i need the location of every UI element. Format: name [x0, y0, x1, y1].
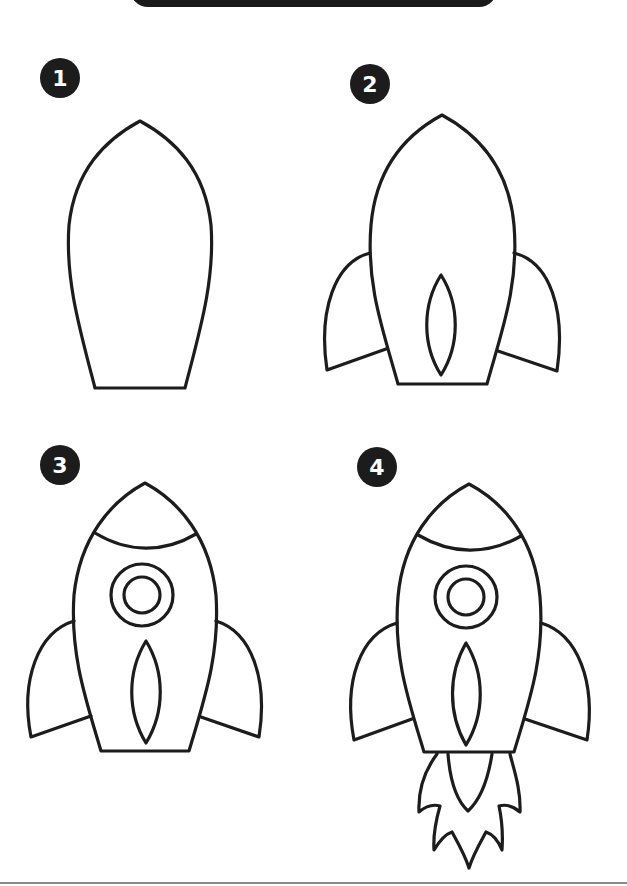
step-1-rocket-drawing: [68, 121, 211, 388]
center-window-lens: [132, 641, 161, 743]
center-window-lens: [453, 643, 481, 745]
center-window-lens: [427, 275, 456, 375]
nose-band: [95, 533, 196, 548]
rocket-body-outline: [68, 121, 211, 388]
exhaust-flame-inner: [448, 754, 492, 811]
porthole-inner-ring: [124, 577, 160, 613]
rocket-body-outline: [370, 115, 515, 384]
rocket-body-outline: [73, 483, 216, 751]
porthole-inner-ring: [448, 579, 484, 615]
step-2-rocket-drawing: [325, 115, 560, 384]
porthole-outer-ring: [435, 566, 497, 628]
nose-band: [418, 535, 521, 550]
step-4-rocket-drawing: [351, 484, 590, 868]
rocket-body-outline: [397, 484, 541, 752]
porthole-outer-ring: [111, 564, 173, 626]
page-bottom-rule: [0, 882, 627, 884]
step-3-rocket-drawing: [28, 483, 262, 751]
